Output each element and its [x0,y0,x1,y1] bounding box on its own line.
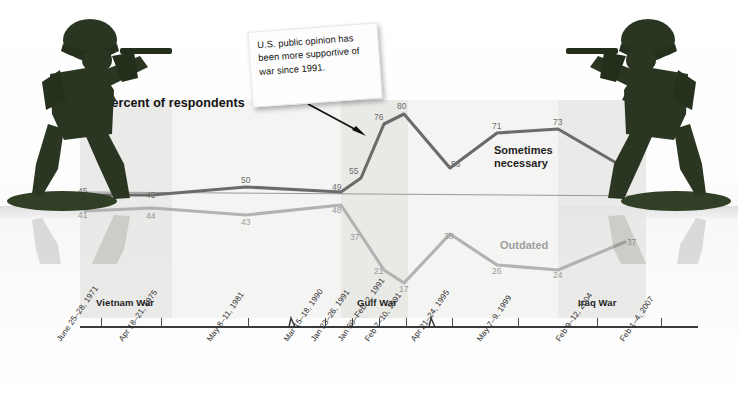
value-label-light-9: 24 [553,270,563,280]
value-label-dark-6: 80 [397,101,407,111]
callout-note: U.S. public opinion has been more suppor… [247,22,382,107]
value-label-dark-4: 55 [349,166,359,176]
toy-soldier-left [2,4,172,264]
series-label-line-1: Sometimes [494,144,553,157]
value-label-light-8: 26 [492,266,502,276]
series-label-outdated: Outdated [500,239,548,252]
series-label-sometimes-necessary: Sometimes necessary [494,144,553,171]
value-label-light-6: 17 [399,284,409,294]
infographic-chart: Vietnam War Gulf War Iraq War Percent of… [0,0,738,401]
value-label-light-4: 37 [350,232,360,242]
x-axis-tick-9 [597,318,598,327]
x-axis-tick-1 [161,318,162,327]
value-label-dark-3: 49 [332,182,342,192]
value-label-light-5: 21 [374,266,384,276]
x-axis-tick-10 [661,318,662,327]
value-label-dark-8: 71 [492,121,502,131]
x-axis-tick-6 [406,318,407,327]
value-label-light-3: 48 [332,205,342,215]
series-label-line-2: necessary [494,157,553,170]
callout-arrow [308,104,366,136]
x-axis-line [80,326,698,328]
x-axis-tick-7 [452,318,453,327]
value-label-dark-2: 50 [241,175,251,185]
value-label-light-2: 43 [241,217,251,227]
value-label-light-7: 38 [444,231,454,241]
callout-note-text: U.S. public opinion has been more suppor… [257,31,374,80]
x-axis-tick-8 [518,318,519,327]
value-label-dark-9: 73 [553,117,563,127]
value-label-dark-5: 76 [374,112,384,122]
toy-soldier-right [566,4,736,264]
x-axis-tick-2 [248,318,249,327]
value-label-dark-7: 56 [451,159,461,169]
x-axis-tick-0 [101,318,102,327]
